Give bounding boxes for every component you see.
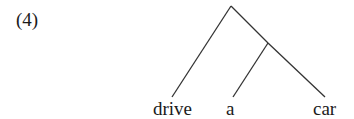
leaf-drive: drive — [153, 99, 192, 118]
branch-inner-a — [233, 43, 268, 97]
branch-root-drive — [172, 6, 231, 97]
branch-inner-car — [268, 43, 325, 97]
branch-root-inner — [231, 6, 268, 43]
leaf-car: car — [313, 99, 336, 118]
leaf-a: a — [226, 99, 234, 118]
